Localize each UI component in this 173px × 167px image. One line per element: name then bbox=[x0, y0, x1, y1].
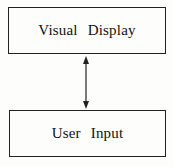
user-input-box: User Input bbox=[9, 110, 166, 157]
user-input-label: User Input bbox=[52, 125, 124, 142]
